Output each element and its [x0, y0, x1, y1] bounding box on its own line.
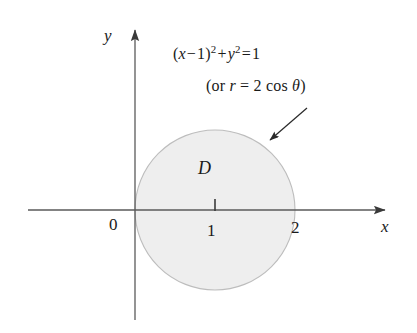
minus-sign: −	[186, 45, 197, 62]
variable-x: x	[179, 45, 186, 62]
equation-cartesian: (x−1)2+y2=1	[173, 44, 260, 62]
variable-r: r	[229, 77, 235, 94]
polar-close: )	[300, 77, 306, 94]
polar-equals: =	[240, 77, 249, 94]
theta-symbol: θ	[292, 77, 300, 94]
tick-label-1: 1	[207, 222, 216, 239]
rhs-one: 1	[252, 45, 260, 62]
plus-sign: +	[216, 45, 227, 62]
x-axis-label: x	[381, 218, 389, 235]
y-axis-label: y	[104, 27, 112, 44]
exponent-two-y: 2	[235, 43, 241, 55]
tick-label-2: 2	[291, 219, 300, 236]
polar-open: (or	[206, 77, 225, 94]
equation-polar: (or r = 2 cos θ)	[206, 78, 306, 94]
region-label-d: D	[198, 159, 211, 177]
tick-label-0: 0	[109, 216, 118, 233]
figure-canvas: (x−1)2+y2=1 (or r = 2 cos θ) y x 0 1 2 D	[0, 0, 417, 333]
variable-y: y	[228, 45, 235, 62]
leader-arrow-line	[270, 108, 307, 140]
polar-coefficient: 2	[254, 77, 262, 94]
equals-sign: =	[241, 45, 252, 62]
cosine-function: cos	[266, 77, 288, 94]
